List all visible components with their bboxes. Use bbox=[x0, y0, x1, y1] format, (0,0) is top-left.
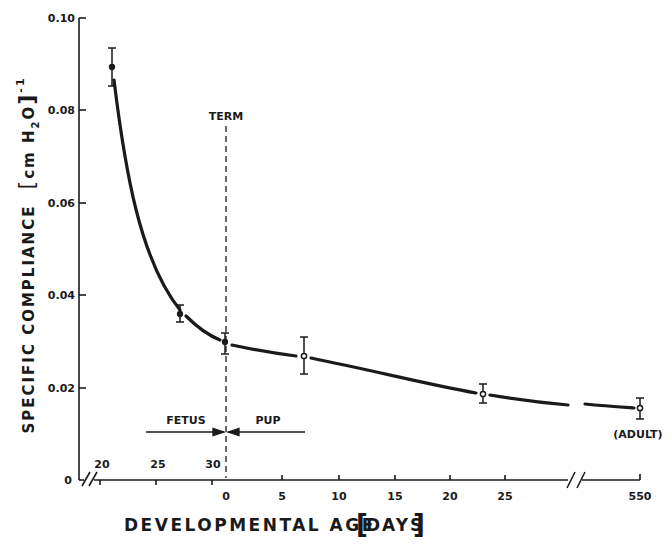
data-points bbox=[108, 48, 644, 419]
x-tick-label: 25 bbox=[497, 490, 512, 503]
svg-text:]: ] bbox=[413, 509, 425, 539]
compliance-chart: 0.10 0.08 0.06 0.04 0.02 0 SPECIFIC COMP… bbox=[0, 0, 672, 545]
x-tick-label: 10 bbox=[331, 490, 347, 503]
pup-label: PUP bbox=[255, 414, 280, 427]
x-tick-label: 0 bbox=[222, 490, 230, 503]
adult-label: (ADULT) bbox=[613, 428, 662, 441]
y-axis bbox=[79, 18, 86, 480]
x-tick-label: 20 bbox=[442, 490, 458, 503]
x-tick-labels-postnatal: 0 5 10 15 20 25 550 bbox=[222, 490, 652, 503]
y-tick-label: 0.08 bbox=[48, 104, 75, 117]
y-tick-label: 0.10 bbox=[48, 12, 75, 25]
x-axis-label: DEVELOPMENTAL AGE bbox=[124, 515, 376, 535]
svg-text:SPECIFIC COMPLIANCE [cm: SPECIFIC COMPLIANCE [cm H2O]-1 bbox=[14, 76, 41, 433]
x-tick-label: 30 bbox=[205, 458, 221, 471]
data-point bbox=[479, 384, 487, 403]
data-point bbox=[221, 333, 229, 354]
data-point bbox=[636, 398, 644, 419]
y-axis-title: SPECIFIC COMPLIANCE [cm H2O]-1 bbox=[14, 76, 41, 433]
fetus-label: FETUS bbox=[166, 414, 205, 427]
y-tick-labels: 0.10 0.08 0.06 0.04 0.02 0 bbox=[48, 12, 75, 487]
y-axis-label: SPECIFIC COMPLIANCE bbox=[20, 205, 38, 434]
y-tick-label: 0.02 bbox=[48, 382, 75, 395]
x-tick-label: 20 bbox=[94, 458, 110, 471]
x-tick-label: 550 bbox=[629, 490, 652, 503]
x-axis-title: DEVELOPMENTAL AGE [ DAYS ] bbox=[124, 509, 425, 539]
term-label: TERM bbox=[209, 110, 243, 123]
data-point bbox=[300, 337, 308, 374]
x-axis bbox=[79, 472, 640, 488]
x-tick-label: 25 bbox=[150, 458, 165, 471]
y-tick-label: 0.06 bbox=[48, 197, 75, 210]
y-tick-label: 0 bbox=[64, 474, 72, 487]
x-tick-label: 15 bbox=[387, 490, 402, 503]
x-tick-labels-fetal: 20 25 30 bbox=[94, 458, 221, 471]
compliance-curve bbox=[114, 80, 634, 408]
y-tick-label: 0.04 bbox=[48, 289, 75, 302]
x-tick-label: 5 bbox=[278, 490, 286, 503]
